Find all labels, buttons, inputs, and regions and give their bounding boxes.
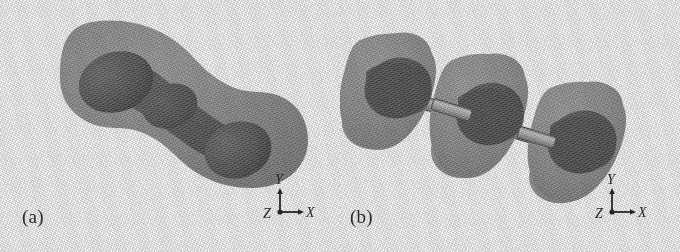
axis-arrow-y — [277, 188, 283, 194]
axis-label-x-b: X — [637, 205, 647, 220]
panel-b: Y X Z (b) — [340, 0, 680, 252]
axis-label-z-b: Z — [595, 206, 603, 221]
axis-arrow-y — [609, 188, 615, 194]
axis-arrow-x — [298, 209, 304, 215]
axis-label-z-a: Z — [263, 206, 271, 221]
axis-triad-b: Y X Z — [590, 172, 652, 228]
isosurface-group-center-b — [421, 43, 534, 189]
panel-label-a: (a) — [22, 206, 44, 228]
axis-triad-a: Y X Z — [258, 172, 320, 228]
figure-root: Y X Z (a) — [0, 0, 680, 252]
isosurface-group-left-b — [340, 22, 441, 159]
axis-label-x-a: X — [305, 205, 315, 220]
panel-label-b: (b) — [350, 206, 373, 228]
axis-label-y-a: Y — [275, 172, 285, 187]
axis-arrow-x — [630, 209, 636, 215]
axis-label-y-b: Y — [607, 172, 617, 187]
panel-a: Y X Z (a) — [0, 0, 340, 252]
